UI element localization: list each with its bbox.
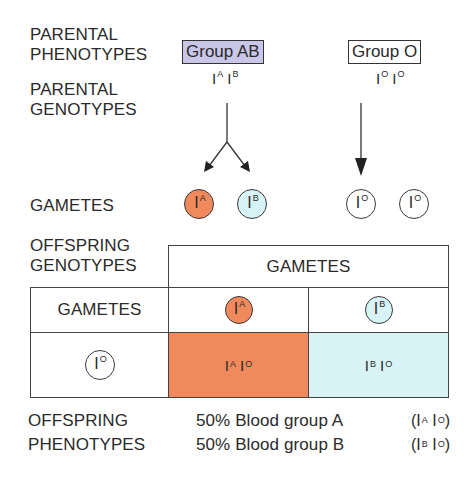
gamete-b-circle: IB [365, 296, 393, 324]
arrowhead-down-icon [355, 158, 367, 176]
offspring-phenotypes-label: OFFSPRING PHENOTYPES [28, 409, 145, 457]
punnett-column-gamete-a: IA [168, 287, 309, 333]
punnett-header-gametes: GAMETES [168, 245, 449, 288]
label-line: PHENOTYPES [28, 433, 145, 457]
punnett-cell-ao: IA IO [168, 332, 309, 398]
offspring-genotype-b: (IB IO) [411, 433, 450, 457]
gamete-o-circle-1: IO [346, 189, 376, 219]
punnett-column-gamete-b: IB [308, 287, 449, 333]
arrowhead-left-icon [204, 161, 214, 172]
gamete-o-circle-2: IO [399, 189, 429, 219]
offspring-phenotype-a: 50% Blood group A [196, 409, 344, 433]
offspring-phenotype-b: 50% Blood group B [196, 433, 344, 457]
punnett-row-header-gametes: GAMETES [30, 287, 169, 333]
gamete-a-circle: IA [184, 189, 214, 219]
arrows-graphic [0, 0, 474, 478]
punnett-cell-bo: IB IO [308, 332, 449, 398]
gamete-o-circle: IO [85, 350, 115, 380]
arrowhead-right-icon [240, 161, 250, 172]
offspring-genotype-list: (IA IO) (IB IO) [411, 409, 450, 457]
punnett-row-gamete-o: IO [30, 332, 169, 398]
label-line: OFFSPRING [28, 409, 145, 433]
gamete-a-circle: IA [225, 296, 253, 324]
gamete-b-circle: IB [237, 189, 267, 219]
offspring-genotype-a: (IA IO) [411, 409, 450, 433]
offspring-phenotype-list: 50% Blood group A 50% Blood group B [196, 409, 344, 457]
